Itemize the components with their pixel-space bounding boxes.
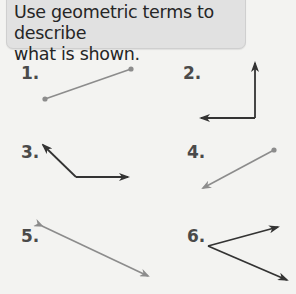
endpoint-icon bbox=[42, 96, 47, 101]
figure-2-right-angle bbox=[201, 63, 255, 118]
figure-3-obtuse-angle bbox=[43, 145, 128, 177]
endpoint-icon bbox=[271, 147, 276, 152]
endpoint-icon bbox=[128, 66, 133, 71]
figure-1-line-segment bbox=[42, 66, 133, 101]
figure-5-line bbox=[42, 226, 148, 276]
figure-4-ray bbox=[203, 147, 277, 188]
figure-6-acute-angle bbox=[208, 227, 287, 280]
figures-canvas bbox=[0, 0, 296, 294]
